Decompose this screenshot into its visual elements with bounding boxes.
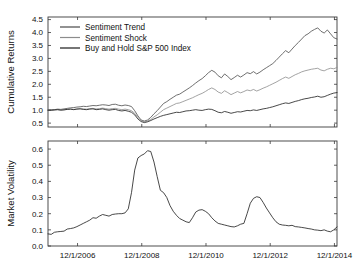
y-tick-label: 1.0: [32, 106, 44, 115]
y-tick-label: 4.5: [32, 15, 44, 24]
y-tick-label: 0.0: [32, 242, 44, 251]
y-tick-label: 0.6: [32, 145, 44, 154]
y-tick-label: 0.3: [32, 193, 44, 202]
x-tick-label: 12/1/2006: [60, 251, 96, 260]
y-tick-label: 1.5: [32, 93, 44, 102]
x-tick-label: 12/1/2008: [124, 251, 160, 260]
two-panel-line-chart: 0.51.01.52.02.53.03.54.04.5Cumulative Re…: [0, 0, 356, 274]
y-tick-label: 2.5: [32, 67, 44, 76]
x-tick-label: 12/1/2010: [188, 251, 224, 260]
y-tick-label: 0.5: [32, 161, 44, 170]
y-tick-label: 4.0: [32, 28, 44, 37]
y-tick-label: 3.0: [32, 54, 44, 63]
x-tick-label: 12/1/2012: [252, 251, 288, 260]
y-tick-label: 3.5: [32, 41, 44, 50]
legend-label-0: Sentiment Trend: [85, 23, 146, 32]
legend-label-1: Sentiment Shock: [85, 34, 148, 43]
y-tick-label: 2.0: [32, 80, 44, 89]
y-tick-label: 0.2: [32, 210, 44, 219]
x-tick-label: 12/1/2014: [317, 251, 353, 260]
y-tick-label: 0.1: [32, 226, 44, 235]
y-tick-label: 0.5: [32, 119, 44, 128]
y-axis-title: Cumulative Returns: [5, 30, 16, 114]
figure-container: 0.51.01.52.02.53.03.54.04.5Cumulative Re…: [0, 0, 356, 274]
y-axis-title: Market Volatility: [5, 160, 16, 227]
legend-label-2: Buy and Hold S&P 500 Index: [85, 44, 191, 53]
y-tick-label: 0.4: [32, 177, 44, 186]
